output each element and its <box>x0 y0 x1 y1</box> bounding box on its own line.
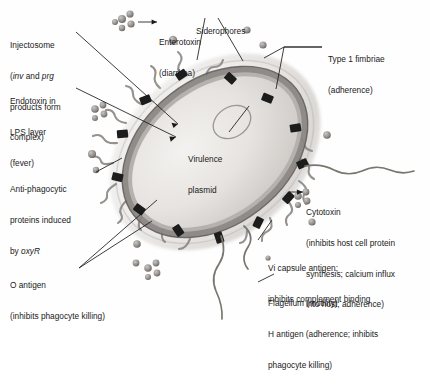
label-vi-capsule-line1: Vi capsule antigen; <box>268 263 370 273</box>
leader-fimbriae-a <box>264 47 322 58</box>
granule <box>88 150 96 158</box>
label-type1-fimbriae: Type 1 fimbriae (adherence) <box>328 34 385 116</box>
label-o-antigen-line1: O antigen <box>10 280 105 290</box>
label-antiphagocytic-line1: Anti-phagocytic <box>10 184 71 194</box>
granule-cluster-left <box>91 102 107 121</box>
label-type1-fimbriae-line1: Type 1 fimbriae <box>328 54 385 64</box>
label-siderophores-line1: Siderophores <box>196 26 245 36</box>
granule <box>93 167 99 173</box>
label-injectosome-line1: Injectosome <box>10 40 61 50</box>
label-o-antigen: O antigen (inhibits phagocyte killing) <box>10 260 105 342</box>
enterotoxin-cluster <box>112 10 135 31</box>
label-cytotoxin-line1: Cytotoxin <box>306 207 395 217</box>
label-virulence-plasmid: Virulence plasmid <box>188 134 222 216</box>
label-enterotoxin: Enterotoxin (diarrhea) <box>159 17 201 99</box>
granule-cluster-bottom-left <box>144 260 160 280</box>
label-flagellum: Flagellum (motility) H antigen (adherenc… <box>268 278 378 374</box>
label-endotoxin-line1: Endotoxin in <box>10 96 56 106</box>
label-flagellum-line1: Flagellum (motility) <box>268 298 378 308</box>
label-flagellum-line2: H antigen (adherence; inhibits <box>268 329 378 339</box>
granule <box>133 260 140 267</box>
label-flagellum-line3: phagocyte killing) <box>268 360 378 370</box>
granule <box>133 240 141 248</box>
label-antiphagocytic-line2: proteins induced <box>10 215 71 225</box>
label-siderophores: Siderophores <box>196 6 245 57</box>
label-virulence-plasmid-line1: Virulence <box>188 154 222 164</box>
label-virulence-plasmid-line2: plasmid <box>188 185 222 195</box>
granule <box>323 131 331 139</box>
label-o-antigen-line2: (inhibits phagocyte killing) <box>10 311 105 321</box>
label-endotoxin-line2: LPS layer <box>10 127 56 137</box>
label-type1-fimbriae-line2: (adherence) <box>328 85 385 95</box>
label-enterotoxin-line2: (diarrhea) <box>159 68 201 78</box>
label-antiphagocytic-line3: by oxyR <box>10 246 71 256</box>
granule <box>259 41 266 48</box>
label-enterotoxin-line1: Enterotoxin <box>159 37 201 47</box>
